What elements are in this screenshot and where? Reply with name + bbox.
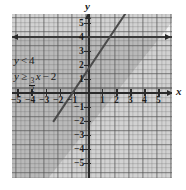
y-tick-label: 1 — [79, 75, 84, 85]
inequality-second: y≥32x−2 — [14, 68, 56, 93]
coordinate-plane — [12, 14, 172, 178]
y-tick-label: −1 — [74, 103, 84, 113]
y-tick-label: −4 — [74, 145, 84, 155]
inequality-first-lhs: y — [14, 54, 19, 66]
boundary-line-y-equals-4 — [12, 36, 172, 38]
x-tick-label: −5 — [11, 96, 21, 106]
y-tick — [84, 51, 91, 53]
inequality-second-variable: x — [36, 70, 41, 82]
y-tick-label: 3 — [79, 47, 84, 57]
x-tick-label: 2 — [114, 96, 119, 106]
y-tick-label: 5 — [79, 19, 84, 29]
inequality-first-relation: < — [21, 54, 27, 66]
x-tick-label: 3 — [128, 96, 133, 106]
x-tick-label: −3 — [39, 96, 49, 106]
y-axis-label: y — [85, 1, 90, 12]
y-tick — [84, 23, 91, 25]
y-tick — [84, 149, 91, 151]
y-tick-label: −5 — [74, 159, 84, 169]
right-arrow-icon — [165, 34, 171, 40]
inequality-annotations: y<4 y≥32x−2 — [14, 52, 56, 93]
fraction-numerator: 3 — [29, 77, 35, 85]
left-arrow-icon — [12, 34, 18, 40]
inequality-first-rhs: 4 — [29, 54, 35, 66]
y-tick-label: 2 — [79, 61, 84, 71]
x-tick-label: 4 — [142, 96, 147, 106]
y-axis — [88, 14, 90, 178]
y-tick-label: −2 — [74, 117, 84, 127]
y-tick — [84, 163, 91, 165]
y-tick — [84, 121, 91, 123]
fraction-denominator: 2 — [29, 85, 35, 94]
inequality-second-relation: ≥ — [21, 70, 27, 82]
x-tick-label: −4 — [25, 96, 35, 106]
inequality-second-lhs: y — [14, 70, 19, 82]
y-axis-arrow-icon — [85, 14, 91, 19]
inequality-second-constant: 2 — [51, 70, 57, 82]
inequality-second-operator: − — [43, 70, 49, 82]
y-tick — [84, 79, 91, 81]
x-tick-label: 1 — [100, 96, 105, 106]
x-axis-label: x — [176, 86, 182, 97]
graph-figure: −5 −4 −3 −2 −1 1 2 3 4 5 5 4 3 2 1 −1 −2… — [0, 0, 186, 190]
x-tick-label: −2 — [53, 96, 63, 106]
y-tick-label: 4 — [79, 33, 84, 43]
y-tick — [84, 107, 91, 109]
x-tick-label: 5 — [156, 96, 161, 106]
fraction-three-halves: 32 — [29, 77, 35, 93]
y-tick-label: −3 — [74, 131, 84, 141]
y-tick — [84, 135, 91, 137]
x-axis-arrow-icon — [167, 90, 172, 96]
inequality-first: y<4 — [14, 52, 56, 68]
